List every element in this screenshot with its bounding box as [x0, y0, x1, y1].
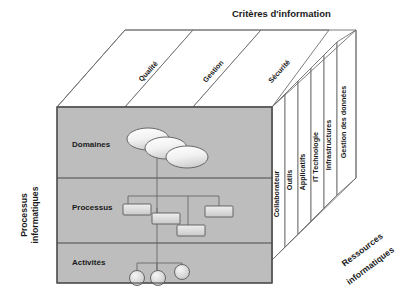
process-box-2[interactable] — [152, 213, 180, 224]
domain-ellipse-3[interactable] — [166, 146, 208, 168]
left-axis-label-line2: informatiques — [30, 186, 40, 243]
front-row-label-1: Processus — [72, 203, 113, 212]
right-panel-label-5: Gestion des données — [339, 86, 348, 159]
process-box-3[interactable] — [177, 225, 205, 236]
activity-circle-3[interactable] — [175, 265, 190, 280]
right-panel-label-3: IT Technologie — [311, 132, 320, 182]
right-panel-label-2: Applicatifs — [298, 154, 307, 191]
left-axis-label-line1: Processus — [19, 193, 29, 237]
left-axis-label-group: Processus informatiques Processus inform… — [0, 0, 40, 243]
right-panel-label-4: Infrastructures — [324, 120, 333, 171]
process-box-4[interactable] — [205, 206, 233, 217]
diagram-root: Critères d'information Processus informa… — [0, 0, 413, 304]
right-panel-label-0: Collaborateur — [272, 170, 281, 217]
process-box-1[interactable] — [123, 204, 151, 215]
diagram-title: Critères d'information — [232, 8, 331, 19]
right-panel-label-1: Outils — [285, 170, 294, 190]
front-row-label-2: Activités — [72, 258, 106, 267]
right-panel-applicatifs[interactable] — [298, 68, 311, 234]
right-panel-outils[interactable] — [285, 81, 298, 247]
front-row-label-0: Domaines — [72, 140, 111, 149]
